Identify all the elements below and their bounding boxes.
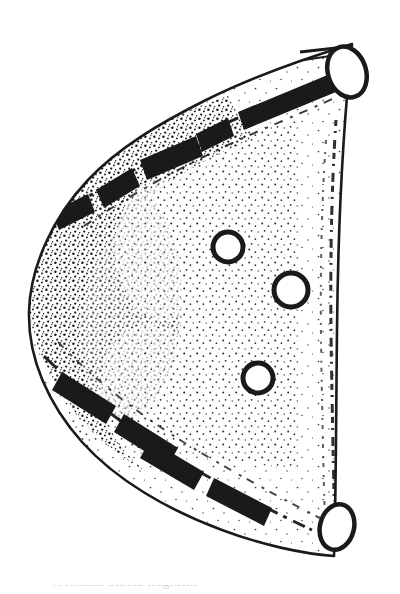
interior-hole-upper bbox=[213, 232, 243, 262]
caption-remnant: A Roman Shield fragment bbox=[0, 585, 400, 594]
artifact-silhouette-icon bbox=[0, 0, 400, 594]
interior-hole-lower bbox=[243, 363, 273, 393]
interior-hole-middle bbox=[274, 273, 308, 307]
figure-plate: A Roman Shield fragment bbox=[0, 0, 400, 594]
artifact-drawing bbox=[0, 0, 400, 594]
caption-remnant-text: A Roman Shield fragment bbox=[52, 585, 197, 590]
